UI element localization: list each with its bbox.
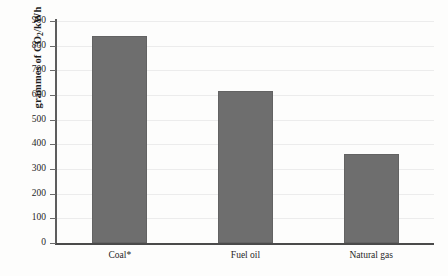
x-axis-category-label: Coal*	[60, 250, 180, 260]
y-axis-tick-label: 0	[12, 237, 46, 247]
bar	[218, 91, 273, 243]
y-axis-tick-mark	[50, 70, 56, 71]
y-axis-tick-mark	[50, 95, 56, 96]
bar-chart-figure: grammes of CO2/kWh 010020030040050060070…	[0, 0, 448, 276]
y-axis-tick-label: 900	[12, 15, 46, 25]
y-axis-tick-label: 400	[12, 138, 46, 148]
bar	[92, 36, 147, 243]
y-axis-tick-label: 100	[12, 212, 46, 222]
y-axis-tick-mark	[50, 169, 56, 170]
x-axis-category-label: Fuel oil	[186, 250, 306, 260]
y-axis-tick-mark	[50, 243, 56, 244]
bar	[344, 154, 399, 243]
y-axis-tick-mark	[50, 194, 56, 195]
y-axis-tick-label: 500	[12, 114, 46, 124]
y-axis-tick-mark	[50, 46, 56, 47]
y-axis-tick-label: 700	[12, 64, 46, 74]
y-axis-tick-mark	[50, 120, 56, 121]
y-axis-tick-label: 800	[12, 40, 46, 50]
bars-layer	[57, 21, 434, 243]
x-axis-category-label: Natural gas	[311, 250, 431, 260]
y-axis-tick-mark	[50, 21, 56, 22]
y-axis-tick-mark	[50, 144, 56, 145]
y-axis-tick-label: 600	[12, 89, 46, 99]
y-axis-tick-label: 300	[12, 163, 46, 173]
y-axis-tick-label: 200	[12, 188, 46, 198]
y-axis-tick-mark	[50, 218, 56, 219]
